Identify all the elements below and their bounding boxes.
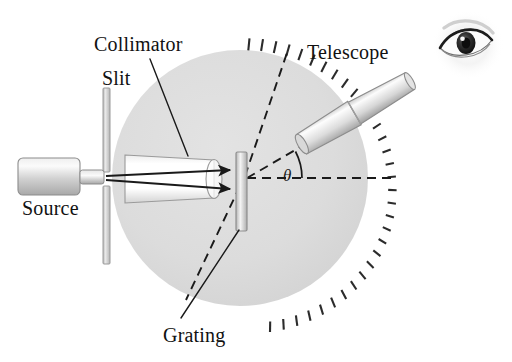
- light-source-lamp: [18, 158, 104, 195]
- label-telescope: Telescope: [307, 42, 388, 62]
- label-theta-angle: θ: [283, 167, 291, 184]
- label-grating: Grating: [163, 325, 226, 345]
- eye-highlight: [460, 37, 465, 42]
- label-collimator: Collimator: [94, 34, 183, 54]
- grating-spectrometer-figure: Collimator Slit Telescope Source Grating…: [0, 0, 512, 362]
- label-source: Source: [22, 198, 79, 218]
- label-slit: Slit: [102, 68, 131, 88]
- collimator-lens: [206, 160, 222, 199]
- diagram-canvas: [0, 0, 512, 362]
- collimator-tube: [125, 155, 222, 203]
- diffraction-grating-plate: [236, 152, 247, 231]
- observer-eye: [432, 10, 504, 80]
